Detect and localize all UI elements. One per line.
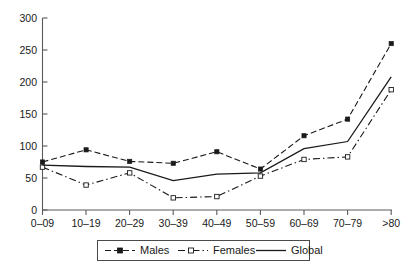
data-point-marker	[258, 174, 262, 178]
y-tick-label: 200	[19, 76, 37, 88]
x-tick-label: 10–19	[71, 217, 100, 229]
data-point-marker	[128, 159, 132, 163]
data-point-marker	[389, 87, 393, 91]
x-tick-marks	[43, 210, 392, 215]
x-tick-label: 30–39	[159, 217, 188, 229]
y-tick-label: 100	[19, 140, 37, 152]
y-tick-label: 250	[19, 44, 37, 56]
series-males	[40, 42, 393, 172]
series-females	[40, 87, 393, 200]
data-point-marker	[345, 155, 349, 159]
data-point-marker	[127, 171, 131, 175]
x-tick-label: >80	[382, 217, 400, 229]
legend-label-global: Global	[291, 244, 323, 256]
data-point-marker	[171, 161, 175, 165]
y-tick-labels: 300 250 200 150 100 50 0	[19, 12, 37, 216]
data-point-marker	[84, 148, 88, 152]
data-point-marker	[215, 150, 219, 154]
data-point-marker	[40, 160, 44, 164]
series-line-global	[43, 77, 392, 181]
y-tick-label: 50	[25, 172, 37, 184]
chart-container: 300 250 200 150 100 50 0 0–09 10–19 20–2…	[0, 0, 407, 267]
x-tick-labels: 0–09 10–19 20–29 30–39 40–49 50–59 60–69…	[31, 217, 400, 229]
data-point-marker	[215, 194, 219, 198]
filled-square-icon	[118, 248, 123, 253]
y-tick-label: 300	[19, 12, 37, 24]
line-chart: 300 250 200 150 100 50 0 0–09 10–19 20–2…	[0, 0, 407, 267]
series-global	[43, 77, 392, 181]
data-point-marker	[302, 157, 306, 161]
x-tick-label: 50–59	[246, 217, 275, 229]
x-tick-label: 40–49	[202, 217, 231, 229]
x-tick-label: 60–69	[289, 217, 318, 229]
y-tick-label: 0	[31, 204, 37, 216]
data-point-marker	[346, 117, 350, 121]
legend: Males Females Global	[98, 241, 323, 261]
data-point-marker	[302, 134, 306, 138]
data-point-marker	[258, 167, 262, 171]
x-tick-label: 70–79	[333, 217, 362, 229]
series-line-females	[43, 90, 392, 198]
y-tick-marks	[43, 18, 48, 210]
data-point-marker	[389, 42, 393, 46]
open-square-icon	[189, 248, 194, 253]
legend-label-males: Males	[140, 244, 170, 256]
x-tick-label: 0–09	[31, 217, 55, 229]
y-tick-label: 150	[19, 108, 37, 120]
x-tick-label: 20–29	[115, 217, 144, 229]
data-point-marker	[84, 183, 88, 187]
series-layer	[40, 42, 393, 201]
data-point-marker	[171, 196, 175, 200]
legend-label-females: Females	[213, 244, 256, 256]
